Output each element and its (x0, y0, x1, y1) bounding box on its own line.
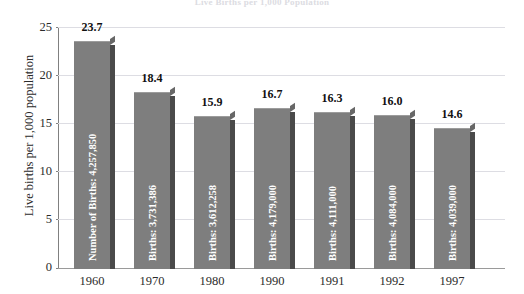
bar-value-label: 18.4 (128, 71, 176, 86)
bar-group[interactable]: Births: 4,039,00014.6 (434, 28, 470, 269)
chart-title: Live Births per 1,000 Population (0, 0, 524, 7)
y-tick-label-20: 20 (26, 69, 52, 82)
x-tick-label: 1990 (242, 274, 302, 289)
bar-group[interactable]: Births: 4,179,00016.7 (254, 28, 290, 269)
bar[interactable]: Number of Births: 4,257,850 (74, 41, 110, 269)
bar-group[interactable]: Births: 3,612,25815.9 (194, 28, 230, 269)
bar-value-label: 14.6 (428, 107, 476, 122)
x-tick-label: 1980 (182, 274, 242, 289)
bar-value-label: 16.3 (308, 91, 356, 106)
bar[interactable]: Births: 3,731,386 (134, 92, 170, 269)
bar[interactable]: Births: 3,612,258 (194, 116, 230, 269)
bar-value-label: 16.7 (248, 87, 296, 102)
bar[interactable]: Births: 4,084,000 (374, 115, 410, 269)
y-tick-label-5: 5 (26, 213, 52, 226)
y-tick-label-25: 25 (26, 21, 52, 34)
bar-value-label: 23.7 (68, 20, 116, 35)
y-tick-label-0: 0 (26, 261, 52, 274)
bar-value-label: 15.9 (188, 95, 236, 110)
bar-group[interactable]: Births: 4,111,00016.3 (314, 28, 350, 269)
x-tick-label: 1970 (122, 274, 182, 289)
bar-group[interactable]: Births: 3,731,38618.4 (134, 28, 170, 269)
y-tick-label-15: 15 (26, 117, 52, 130)
x-tick-label: 1991 (302, 274, 362, 289)
y-tick-label-10: 10 (26, 165, 52, 178)
y-axis-ticks: 25 20 15 10 5 0 (20, 27, 52, 269)
bar-group[interactable]: Number of Births: 4,257,85023.7 (74, 28, 110, 269)
bar[interactable]: Births: 4,179,000 (254, 108, 290, 269)
x-tick-label: 1997 (422, 274, 482, 289)
bar-value-label: 16.0 (368, 94, 416, 109)
bar[interactable]: Births: 4,039,000 (434, 128, 470, 269)
plot-area: Number of Births: 4,257,85023.7Births: 3… (58, 27, 505, 269)
bar-chart: Live Births per 1,000 Population Live bi… (0, 0, 524, 294)
bar-group[interactable]: Births: 4,084,00016.0 (374, 28, 410, 269)
x-tick-label: 1960 (62, 274, 122, 289)
x-tick-label: 1992 (362, 274, 422, 289)
bar[interactable]: Births: 4,111,000 (314, 112, 350, 269)
